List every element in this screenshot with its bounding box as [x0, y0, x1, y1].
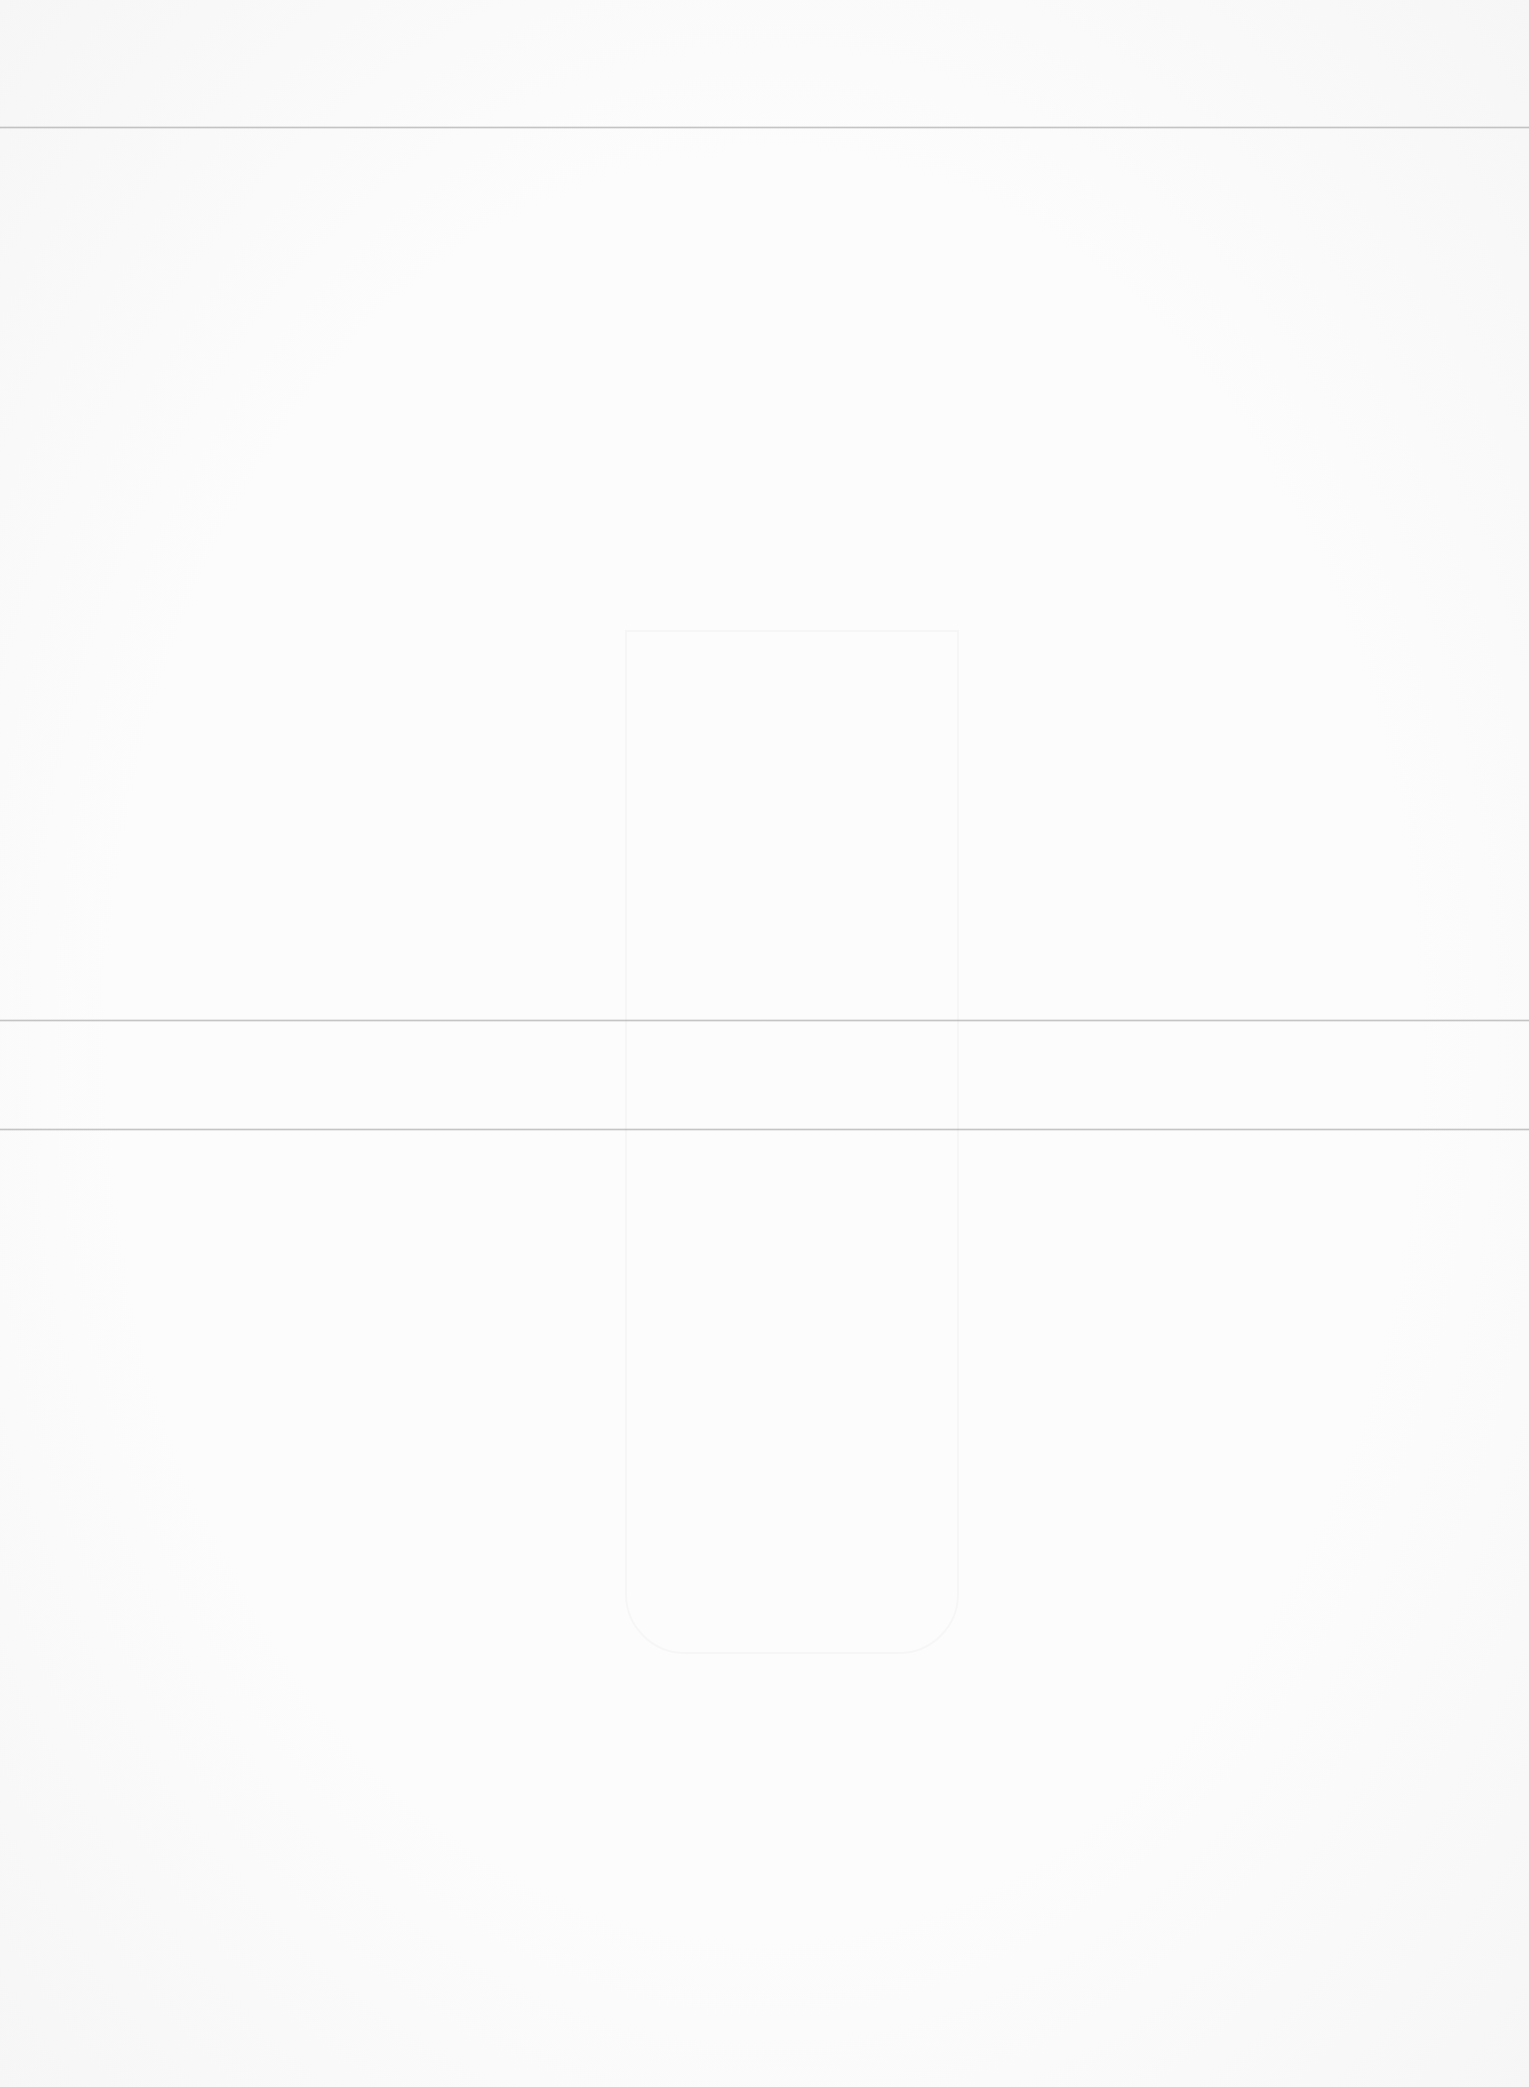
- blank-scanned-page: [0, 0, 1529, 2087]
- show-through-ghost-shape: [625, 630, 959, 1654]
- fold-line-middle: [0, 1019, 1529, 1022]
- fold-line-lower: [0, 1128, 1529, 1131]
- fold-line-top: [0, 126, 1529, 129]
